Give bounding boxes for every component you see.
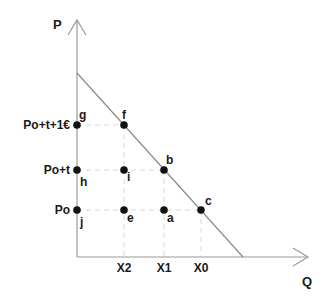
point-label-f: f: [122, 108, 127, 122]
axes: [68, 20, 308, 266]
point-label-c: c: [205, 194, 212, 208]
point-label-a: a: [167, 211, 174, 225]
price-label-p-mid: Po+t: [44, 163, 70, 177]
point-label-e: e: [127, 211, 134, 225]
demand-line: [77, 73, 243, 257]
points: [73, 121, 205, 214]
quantity-label-x0: X0: [194, 261, 209, 275]
price-label-p-high: Po+t+1€: [23, 118, 70, 132]
x-axis-label: Q: [302, 274, 312, 289]
point-g: [73, 121, 81, 129]
point-label-j: j: [79, 215, 83, 229]
demand-diagram: P Q Po+t+1€ Po+t Po X2 X1 X0 g f h i b j…: [0, 0, 328, 296]
quantity-label-x2: X2: [117, 261, 132, 275]
point-label-i: i: [127, 170, 130, 184]
y-axis-label: P: [53, 17, 62, 32]
point-b: [160, 166, 168, 174]
point-c: [197, 206, 205, 214]
point-label-h: h: [80, 175, 87, 189]
guide-lines: [77, 125, 201, 257]
point-h: [73, 166, 81, 174]
quantity-label-x1: X1: [157, 261, 172, 275]
point-label-b: b: [166, 153, 173, 167]
price-label-p-low: Po: [55, 203, 70, 217]
point-label-g: g: [79, 108, 86, 122]
point-f: [120, 121, 128, 129]
point-j: [73, 206, 81, 214]
